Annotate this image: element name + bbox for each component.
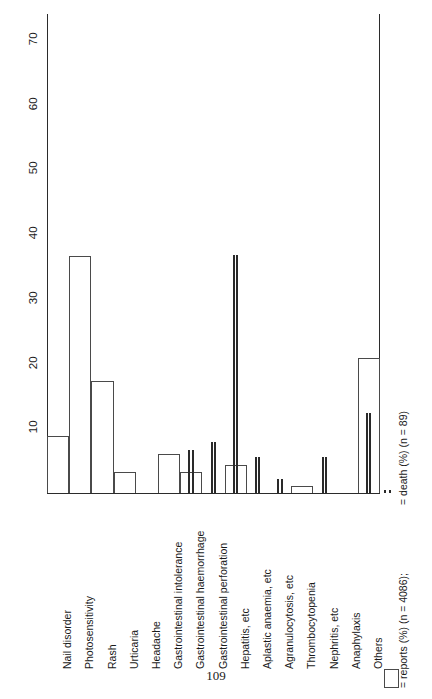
bars-container	[47, 14, 380, 493]
death-line	[322, 457, 324, 493]
x-label-aplastic-anaemia-etc: Aplastic anaemia, etc	[262, 569, 273, 669]
x-label-agranulocytosis-etc: Agranulocytosis, etc	[284, 575, 295, 669]
death-line	[236, 255, 238, 493]
report-bar	[91, 381, 113, 493]
death-line	[281, 479, 283, 493]
death-line	[325, 457, 327, 493]
y-tick-40: 40	[28, 226, 40, 239]
legend-label-death: = death (%) (n = 89)	[397, 411, 409, 505]
x-label-gastrointestinal-haemorrhage: Gastrointestinal haemorrhage	[195, 531, 206, 669]
y-tick-10: 10	[28, 421, 40, 434]
x-label-gastrointestinal-intolerance: Gastrointestinal intolerance	[173, 542, 184, 669]
report-bar	[47, 436, 69, 493]
x-label-urticaria: Urticaria	[129, 630, 140, 669]
x-axis-category-labels: Nail disorderPhotosensitivityRashUrticar…	[47, 497, 380, 672]
report-bar	[158, 454, 180, 493]
death-line	[233, 255, 235, 493]
death-line	[277, 479, 279, 493]
legend: = reports (%) (n = 4086); = death (%) (n…	[381, 300, 432, 690]
legend-swatch-death-icon	[384, 490, 398, 493]
plot-area	[47, 14, 380, 493]
y-tick-20: 20	[28, 356, 40, 369]
death-line	[211, 442, 213, 493]
report-bar	[291, 486, 313, 493]
x-label-gastrointestinal-perforation: Gastrointestinal perforation	[218, 543, 229, 669]
x-label-anaphylaxis: Anaphylaxis	[351, 612, 362, 669]
figure: 10203040506070 Nail disorderPhotosensiti…	[0, 0, 432, 699]
y-tick-50: 50	[28, 162, 40, 175]
y-tick-70: 70	[28, 32, 40, 45]
x-label-hepatitis-etc: Hepatitis, etc	[240, 608, 251, 669]
death-line	[188, 450, 190, 493]
y-tick-30: 30	[28, 291, 40, 304]
page-number: 109	[0, 668, 432, 684]
y-tick-60: 60	[28, 97, 40, 110]
x-label-rash: Rash	[107, 644, 118, 669]
death-line	[255, 457, 257, 493]
y-axis-tick-labels: 10203040506070	[0, 0, 44, 493]
death-line	[369, 413, 371, 493]
x-axis-line	[47, 493, 380, 494]
death-line	[366, 413, 368, 493]
death-line	[214, 442, 216, 493]
report-bar	[114, 472, 136, 493]
x-label-headache: Headache	[151, 621, 162, 669]
death-line	[192, 450, 194, 493]
x-label-nail-disorder: Nail disorder	[62, 610, 73, 669]
report-bar	[69, 256, 91, 493]
x-label-nephritis-etc: Nephritis, etc	[329, 608, 340, 669]
x-label-photosensitivity: Photosensitivity	[84, 596, 95, 669]
death-line	[258, 457, 260, 493]
x-label-thrombocytopenia: Thrombocytopenia	[306, 582, 317, 669]
